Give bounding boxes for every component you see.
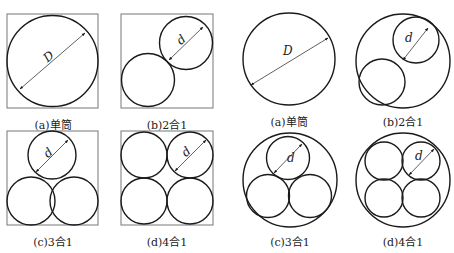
dimension-label-d: d (179, 144, 194, 160)
caption-circle-b: (b)2合1 (383, 113, 424, 129)
cylinder (393, 17, 439, 63)
caption-square-a: (a)单筒 (34, 116, 71, 132)
dimension-label-d: d (41, 145, 56, 161)
caption-square-d: (d)4合1 (147, 233, 188, 249)
caption-square-b: (b)2合1 (147, 116, 188, 132)
square-panel-d: d (121, 131, 213, 225)
square-panel-b: d (121, 14, 213, 108)
caption-square-c: (c)3合1 (33, 233, 73, 249)
cylinder (167, 178, 213, 224)
circle-panel-d: d (356, 133, 450, 227)
cylinder (121, 132, 167, 178)
circle-panel-c: d (243, 133, 337, 227)
cylinder (7, 177, 55, 225)
cylinder (359, 59, 405, 105)
circle-panel-a: D (243, 13, 335, 105)
cylinder (289, 175, 332, 218)
cylinder (365, 179, 403, 217)
square-frame (121, 131, 213, 225)
dimension-label-d: d (415, 149, 423, 163)
dimension-label-D: D (40, 48, 57, 66)
caption-circle-c: (c)3合1 (270, 233, 310, 249)
cylinder (365, 142, 403, 180)
caption-circle-d: (d)4合1 (383, 233, 424, 249)
cylinder (243, 13, 335, 105)
cylinder (402, 179, 440, 217)
caption-circle-a: (a)单筒 (270, 113, 307, 129)
dimension-label-d: d (405, 31, 413, 45)
cylinder (121, 178, 167, 224)
dimension-label-d: d (174, 32, 189, 48)
dimension-label-D: D (282, 44, 293, 58)
cylinder (50, 177, 98, 225)
square-panel-c: d (7, 131, 98, 225)
circle-panel-b: d (356, 14, 450, 108)
dimension-label-d: d (287, 151, 295, 165)
cylinder (247, 175, 290, 218)
square-panel-a: D (7, 14, 98, 108)
